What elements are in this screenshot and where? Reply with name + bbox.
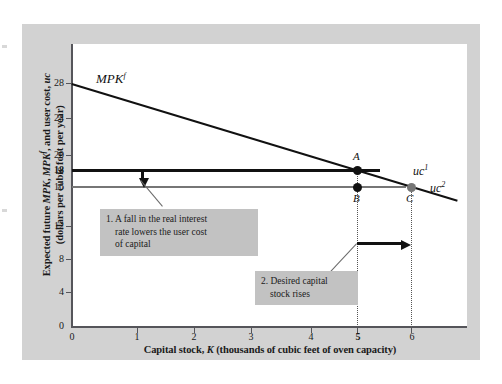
y-tick-label-28: 28 (38, 77, 64, 88)
y-tick-label-12: 12 (38, 220, 64, 231)
mpk-f-label-text: MPK (96, 71, 123, 86)
x-tick-label-0: 0 (60, 331, 84, 342)
x-tick-mark-5 (357, 328, 358, 333)
y-title-pre: Expected future (41, 203, 52, 276)
mpk-f-label: MPKf (96, 71, 126, 87)
y-tick-mark-24 (66, 118, 72, 119)
x-tick-mark-3 (251, 328, 252, 333)
registration-mark-bottom (2, 209, 7, 212)
note1-line2: rate lowers the user cost (106, 226, 252, 239)
x-tick-mark-4 (311, 328, 312, 333)
uc1-label-sup: 1 (424, 163, 428, 172)
y-tick-label-8: 8 (38, 253, 64, 264)
y-tick-label-0: 0 (38, 320, 64, 331)
uc1-label-text: uc (413, 164, 424, 178)
y-tick-label-18: 18 (38, 164, 64, 175)
uc1-label: uc1 (413, 163, 428, 179)
note2-line1: 2. Desired capital (261, 275, 352, 288)
note2-line2: stock rises (261, 288, 352, 301)
figure-container: Expected future MPK, MPKf, and user cost… (0, 0, 502, 384)
registration-mark-top (2, 45, 7, 48)
point-c-marker (407, 183, 416, 192)
x-title-pre: Capital stock, (144, 344, 207, 355)
point-a-marker (353, 166, 362, 175)
uc2-label-text: uc (430, 181, 441, 195)
note1-line1: 1. A fall in the real interest (106, 213, 252, 226)
y-tick-label-4: 4 (38, 286, 64, 297)
y-tick-mark-4 (66, 292, 72, 293)
dropline-k6 (411, 187, 412, 327)
point-b-marker (353, 183, 362, 192)
uc1-line (72, 169, 380, 172)
y-tick-mark-12 (66, 226, 72, 227)
uc-shift-arrow (141, 170, 144, 179)
x-title-k: K (207, 344, 214, 355)
note-2: 2. Desired capital stock rises (255, 271, 358, 305)
point-b-label: B (353, 192, 360, 204)
y-tick-mark-20 (66, 155, 72, 156)
x-tick-mark-6 (411, 328, 412, 333)
y-tick-label-16: 16 (38, 181, 64, 192)
x-axis-line (71, 326, 467, 328)
x-tick-mark-2 (194, 328, 195, 333)
x-tick-label-5: 5 (346, 331, 370, 342)
note-1: 1. A fall in the real interest rate lowe… (100, 209, 258, 256)
mpk-f-label-sup: f (123, 71, 125, 80)
x-title-post: (thousands of cubic feet of oven capacit… (214, 344, 397, 355)
note1-line3: of capital (106, 238, 252, 251)
y-tick-label-24: 24 (38, 112, 64, 123)
point-c-label: C (406, 192, 413, 204)
uc2-label-sup: 2 (441, 180, 445, 189)
x-tick-mark-1 (137, 328, 138, 333)
x-axis-title: Capital stock, K (thousands of cubic fee… (72, 344, 468, 355)
y-tick-label-20: 20 (38, 149, 64, 160)
capital-shift-arrow (357, 242, 402, 245)
y-tick-mark-8 (66, 259, 72, 260)
uc2-label: uc2 (430, 180, 445, 196)
point-a-label: A (353, 150, 360, 162)
x-tick-label-6: 6 (400, 331, 424, 342)
